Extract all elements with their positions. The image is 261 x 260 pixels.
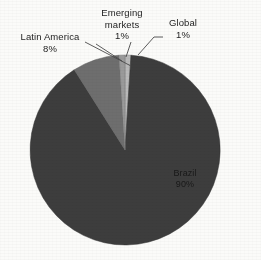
slice-label-brazil-name: Brazil	[173, 168, 196, 178]
slice-label-emerging-markets-name-line2: markets	[90, 19, 154, 31]
slice-label-latin-america: Latin America 8%	[4, 31, 96, 54]
pie-chart-figure: Latin America 8% Emerging markets 1% Glo…	[0, 0, 261, 260]
slice-label-brazil-percent: 90%	[148, 179, 222, 190]
slice-label-global-percent: 1%	[156, 29, 210, 41]
slice-label-emerging-markets-percent: 1%	[90, 30, 154, 42]
slice-label-emerging-markets: Emerging markets 1%	[90, 7, 154, 42]
leader-line-emerging-markets-right	[126, 42, 131, 57]
slice-label-global: Global 1%	[156, 17, 210, 40]
slice-label-latin-america-name: Latin America	[21, 31, 80, 42]
slice-label-latin-america-percent: 8%	[4, 43, 96, 55]
slice-label-emerging-markets-name-line1: Emerging	[101, 7, 142, 18]
slice-label-global-name: Global	[169, 17, 197, 28]
slice-label-brazil: Brazil 90%	[148, 168, 222, 190]
